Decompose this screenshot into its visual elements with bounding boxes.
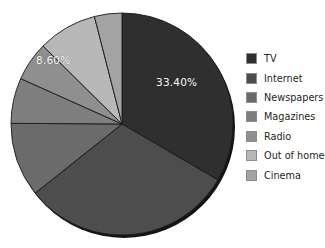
pie-svg <box>0 0 240 248</box>
slice-label-tv: 33.40% <box>156 76 197 88</box>
legend-item-magazines[interactable]: Magazines <box>246 107 325 126</box>
legend-item-tv[interactable]: TV <box>246 49 325 68</box>
legend-swatch-icon <box>246 53 257 64</box>
pie-slices <box>11 13 233 235</box>
legend-item-internet[interactable]: Internet <box>246 68 325 87</box>
legend-swatch-icon <box>246 111 257 122</box>
legend-item-label: Cinema <box>264 170 301 181</box>
legend-item-label: Internet <box>264 73 302 84</box>
slice-label-out-of-home: 8.60% <box>36 54 70 66</box>
legend-item-newspapers[interactable]: Newspapers <box>246 88 325 107</box>
legend-item-label: Newspapers <box>264 92 323 103</box>
legend-swatch-icon <box>246 73 257 84</box>
chart-legend: TVInternetNewspapersMagazinesRadioOut of… <box>246 49 325 185</box>
legend-swatch-icon <box>246 170 257 181</box>
chart-plot-area: 33.40% 8.60% <box>0 0 240 248</box>
legend-item-label: Radio <box>264 131 291 142</box>
legend-item-radio[interactable]: Radio <box>246 127 325 146</box>
legend-item-label: Out of home <box>264 150 325 161</box>
legend-swatch-icon <box>246 150 257 161</box>
legend-swatch-icon <box>246 92 257 103</box>
pie-chart-figure: 33.40% 8.60% TVInternetNewspapersMagazin… <box>0 0 325 248</box>
legend-item-label: Magazines <box>264 111 315 122</box>
legend-item-out-of-home[interactable]: Out of home <box>246 146 325 165</box>
legend-swatch-icon <box>246 131 257 142</box>
legend-item-label: TV <box>264 53 277 64</box>
legend-item-cinema[interactable]: Cinema <box>246 165 325 184</box>
